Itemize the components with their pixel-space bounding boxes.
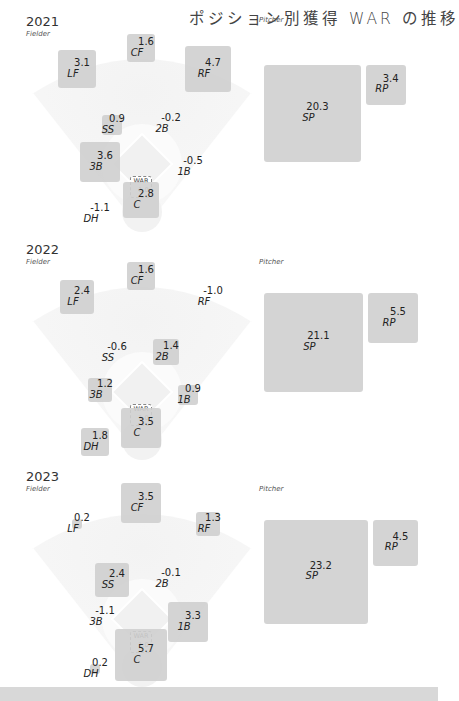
war-value: 2.8 xyxy=(121,189,161,200)
position-label-cf: 1.6CF xyxy=(121,265,161,286)
war-value: 3.6 xyxy=(80,151,120,162)
position-name: DH xyxy=(75,442,115,453)
position-label-rp: 5.5RP xyxy=(373,307,413,328)
position-name: SS xyxy=(92,580,132,591)
position-name: SS xyxy=(92,125,132,136)
position-label-lf: 2.4LF xyxy=(57,286,97,307)
year-label: 2021 xyxy=(26,14,59,29)
position-label-ss: 0.9SS xyxy=(92,114,132,135)
position-label-c: 3.5C xyxy=(121,417,161,438)
pitcher-label: Pitcher xyxy=(259,258,283,266)
position-name: DH xyxy=(75,214,115,225)
war-value: -0.5 xyxy=(168,156,208,167)
position-label-3b: 1.23B xyxy=(80,379,120,400)
war-value: -0.1 xyxy=(146,568,186,579)
position-label-cf: 1.6CF xyxy=(121,37,161,58)
year-section-2021: 2021FielderPitcherWAR1.01.6CF3.1LF4.7RF0… xyxy=(0,22,438,252)
position-name: 1B xyxy=(168,167,208,178)
position-label-1b: 3.31B xyxy=(168,611,208,632)
position-label-3b: 3.63B xyxy=(80,151,120,172)
war-value: 0.2 xyxy=(57,513,97,524)
position-name: 2B xyxy=(146,579,186,590)
position-label-2b: -0.12B xyxy=(146,568,186,589)
position-label-cf: 3.5CF xyxy=(121,492,161,513)
position-label-2b: -0.22B xyxy=(146,113,186,134)
position-name: LF xyxy=(57,297,97,308)
war-value: 1.3 xyxy=(188,513,228,524)
position-name: SS xyxy=(92,353,132,364)
position-name: 2B xyxy=(146,352,186,363)
year-section-2022: 2022FielderPitcherWAR1.01.6CF2.4LF-1.0RF… xyxy=(0,250,438,480)
position-label-dh: 1.8DH xyxy=(75,431,115,452)
year-label: 2023 xyxy=(26,469,59,484)
position-label-ss: 2.4SS xyxy=(92,569,132,590)
position-name: SP xyxy=(296,571,336,582)
war-value: -1.1 xyxy=(75,203,115,214)
war-value: 2.4 xyxy=(92,569,132,580)
war-value: 0.9 xyxy=(92,114,132,125)
position-name: RF xyxy=(188,69,228,80)
position-name: 1B xyxy=(168,395,208,406)
position-name: C xyxy=(121,428,161,439)
position-name: CF xyxy=(121,48,161,59)
position-label-1b: 0.91B xyxy=(168,384,208,405)
war-value: 1.8 xyxy=(75,431,115,442)
position-label-lf: 3.1LF xyxy=(57,58,97,79)
war-value: -0.2 xyxy=(146,113,186,124)
position-name: LF xyxy=(57,69,97,80)
position-label-rf: 1.3RF xyxy=(188,513,228,534)
position-label-2b: 1.42B xyxy=(146,341,186,362)
position-label-dh: 0.2DH xyxy=(75,658,115,679)
position-name: RF xyxy=(188,297,228,308)
war-value: 3.5 xyxy=(121,417,161,428)
pitcher-label: Pitcher xyxy=(259,16,283,24)
position-label-lf: 0.2LF xyxy=(57,513,97,534)
war-value: 2.4 xyxy=(57,286,97,297)
position-name: RP xyxy=(373,318,413,329)
year-label: 2022 xyxy=(26,242,59,257)
position-name: 3B xyxy=(80,617,120,628)
position-label-c: 5.7C xyxy=(121,644,161,665)
war-value: -1.0 xyxy=(188,286,228,297)
pitcher-label: Pitcher xyxy=(259,485,283,493)
position-name: RF xyxy=(188,524,228,535)
war-value: -1.1 xyxy=(80,606,120,617)
position-label-rf: 4.7RF xyxy=(188,58,228,79)
year-section-2023: 2023FielderPitcherWAR1.03.5CF0.2LF1.3RF2… xyxy=(0,477,438,701)
position-label-ss: -0.6SS xyxy=(92,342,132,363)
war-value: 1.6 xyxy=(121,265,161,276)
war-value: 1.4 xyxy=(146,341,186,352)
war-value: -0.6 xyxy=(92,342,132,353)
position-label-c: 2.8C xyxy=(121,189,161,210)
war-value: 4.7 xyxy=(188,58,228,69)
position-label-sp: 20.3SP xyxy=(292,102,332,123)
position-name: 3B xyxy=(80,390,120,401)
position-name: SP xyxy=(292,113,332,124)
fielder-label: Fielder xyxy=(26,258,50,266)
war-value: 1.2 xyxy=(80,379,120,390)
position-label-sp: 21.1SP xyxy=(293,331,333,352)
position-label-1b: -0.51B xyxy=(168,156,208,177)
war-value: 5.7 xyxy=(121,644,161,655)
position-name: CF xyxy=(121,503,161,514)
position-name: 3B xyxy=(80,162,120,173)
footer-bar xyxy=(0,687,438,701)
war-value: 3.3 xyxy=(168,611,208,622)
position-name: C xyxy=(121,200,161,211)
position-name: RP xyxy=(366,84,406,95)
war-value: 0.9 xyxy=(168,384,208,395)
position-name: RP xyxy=(375,542,415,553)
war-value: 3.1 xyxy=(57,58,97,69)
position-label-rf: -1.0RF xyxy=(188,286,228,307)
position-name: C xyxy=(121,655,161,666)
position-name: SP xyxy=(293,342,333,353)
war-value: 1.6 xyxy=(121,37,161,48)
position-name: DH xyxy=(75,669,115,680)
war-value: 3.5 xyxy=(121,492,161,503)
position-label-sp: 23.2SP xyxy=(296,561,336,582)
position-label-rp: 3.4RP xyxy=(366,74,406,95)
position-label-dh: -1.1DH xyxy=(75,203,115,224)
war-value: 0.2 xyxy=(75,658,115,669)
position-name: LF xyxy=(57,524,97,535)
position-name: 1B xyxy=(168,622,208,633)
